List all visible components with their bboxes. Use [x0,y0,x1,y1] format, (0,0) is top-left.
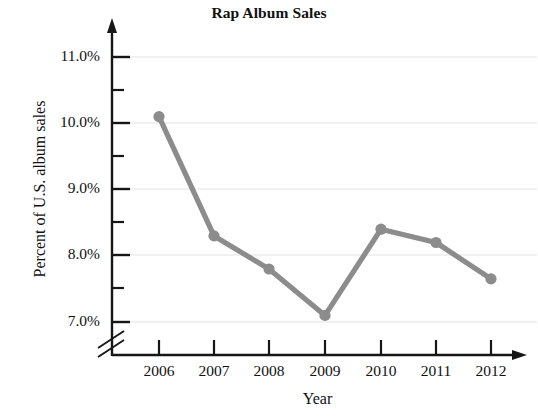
chart-canvas [0,0,538,418]
data-point-2011 [430,237,441,248]
data-point-2012 [485,273,496,284]
x-axis-arrowhead [512,350,527,360]
data-point-2010 [375,224,386,235]
data-point-2009 [319,310,330,321]
x-ticks [159,340,491,355]
data-line-series [159,117,491,316]
y-major-ticks [112,57,130,322]
y-axis-arrowhead [107,18,117,33]
data-point-2007 [208,230,219,241]
data-point-2008 [263,263,274,274]
gridlines [112,57,537,322]
data-point-2006 [153,111,164,122]
rap-album-sales-chart: Rap Album Sales Percent of U.S. album sa… [0,0,538,418]
